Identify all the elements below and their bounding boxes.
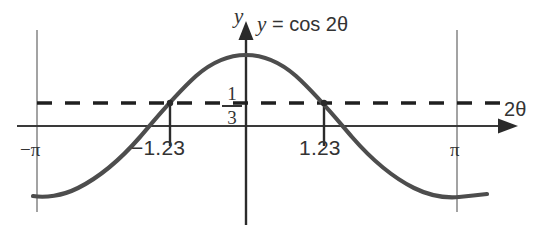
tick-label-neg-pi: −π xyxy=(20,140,40,159)
one-third-value-label: 1 3 xyxy=(222,84,242,128)
x-axis-arrowhead xyxy=(498,119,518,134)
tick-label-neg-1-23: −1.23 xyxy=(131,137,185,158)
fraction-denominator: 3 xyxy=(222,108,242,128)
intersection-dot-right xyxy=(321,100,327,106)
tick-label-pos-1-23: 1.23 xyxy=(299,137,341,158)
fraction-numerator: 1 xyxy=(222,84,242,104)
x-axis-label: 2θ xyxy=(504,99,527,119)
y-axis-label: y xyxy=(234,6,243,27)
intersection-dot-left xyxy=(167,100,173,106)
equation-italic-y: y xyxy=(257,12,266,36)
graph-figure: y y = cos 2θ 2θ 1 3 −π −1.23 1.23 π xyxy=(0,0,542,233)
tick-label-pi: π xyxy=(450,140,460,159)
equation-remainder: = cos 2θ xyxy=(272,13,348,35)
curve-equation-label: y = cos 2θ xyxy=(257,14,348,35)
